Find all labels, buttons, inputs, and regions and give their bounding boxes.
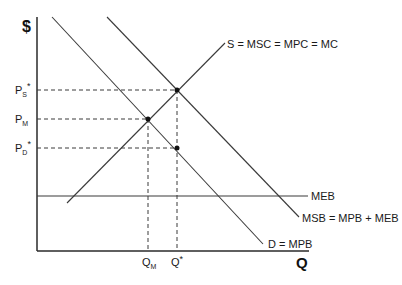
svg-text:Q*: Q* [171, 254, 184, 268]
qstar-label: Q* [171, 254, 184, 268]
pm-label: PM [15, 113, 28, 127]
supply-curve-label: S = MSC = MPC = MC [227, 38, 338, 50]
svg-text:PS*: PS* [15, 81, 31, 98]
demand-curve [52, 17, 263, 244]
svg-text:PM: PM [15, 113, 28, 127]
social-optimum-point [175, 88, 180, 93]
demand-curve-label: D = MPB [268, 238, 312, 250]
svg-text:QM: QM [142, 256, 157, 270]
svg-text:PD*: PD* [15, 139, 31, 156]
qm-label: QM [142, 256, 157, 270]
meb-label: MEB [311, 190, 335, 202]
x-axis-label: Q [296, 254, 308, 271]
y-axis-label: $ [22, 18, 31, 35]
msb-curve-label: MSB = MPB + MEB [302, 212, 399, 224]
ps-star-label: PS* [15, 81, 31, 98]
market-equilibrium-point [146, 117, 151, 122]
supply-curve [67, 43, 225, 203]
externality-diagram: $ Q S = MSC = MPC = MC MEB MSB = MPB + M… [0, 0, 402, 285]
pd-star-label: PD* [15, 139, 31, 156]
demand-price-point [175, 146, 180, 151]
